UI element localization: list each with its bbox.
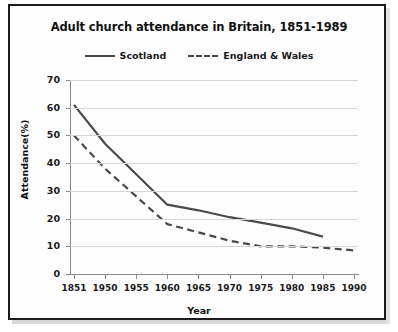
y-tick-mark bbox=[66, 135, 70, 136]
y-tick-label: 10 bbox=[26, 240, 60, 251]
gridline bbox=[70, 246, 358, 247]
x-tick-mark bbox=[323, 274, 324, 279]
gridline bbox=[70, 80, 358, 81]
gridline bbox=[70, 163, 358, 164]
legend-line-solid-icon bbox=[85, 55, 115, 57]
y-tick-label: 70 bbox=[26, 74, 60, 85]
gridline bbox=[70, 191, 358, 192]
series-layer bbox=[70, 80, 358, 274]
legend-label-england-wales: England & Wales bbox=[223, 50, 313, 61]
x-tick-label: 1955 bbox=[119, 283, 153, 293]
chart-title: Adult church attendance in Britain, 1851… bbox=[10, 20, 388, 34]
y-tick-label: 20 bbox=[26, 213, 60, 224]
x-tick-mark bbox=[292, 274, 293, 279]
y-tick-mark bbox=[66, 191, 70, 192]
x-axis-title: Year bbox=[10, 305, 388, 316]
x-tick-label: 1950 bbox=[88, 283, 122, 293]
legend-item-scotland: Scotland bbox=[85, 50, 167, 61]
x-axis-line bbox=[70, 274, 359, 275]
x-tick-mark bbox=[198, 274, 199, 279]
x-tick-label: 1960 bbox=[150, 283, 184, 293]
y-tick-label: 60 bbox=[26, 102, 60, 113]
y-tick-mark bbox=[66, 219, 70, 220]
x-tick-mark bbox=[136, 274, 137, 279]
y-tick-mark bbox=[66, 163, 70, 164]
x-tick-mark bbox=[105, 274, 106, 279]
y-tick-mark bbox=[66, 80, 70, 81]
x-tick-label: 1985 bbox=[306, 283, 340, 293]
x-tick-label: 1970 bbox=[213, 283, 247, 293]
legend-item-england-wales: England & Wales bbox=[188, 50, 313, 61]
gridline bbox=[70, 135, 358, 136]
y-tick-label: 40 bbox=[26, 157, 60, 168]
y-tick-label: 0 bbox=[26, 268, 60, 279]
legend-line-dashed-icon bbox=[188, 55, 218, 57]
y-tick-mark bbox=[66, 246, 70, 247]
x-tick-mark bbox=[354, 274, 355, 279]
x-tick-label: 1980 bbox=[275, 283, 309, 293]
plot-area bbox=[70, 80, 358, 274]
x-tick-label: 1965 bbox=[181, 283, 215, 293]
x-tick-label: 1990 bbox=[337, 283, 371, 293]
legend-label-scotland: Scotland bbox=[120, 50, 167, 61]
chart-legend: Scotland England & Wales bbox=[10, 50, 388, 61]
x-tick-mark bbox=[74, 274, 75, 279]
series-line-scotland bbox=[74, 105, 323, 237]
x-tick-mark bbox=[230, 274, 231, 279]
x-tick-label: 1851 bbox=[57, 283, 91, 293]
y-tick-label: 50 bbox=[26, 129, 60, 140]
x-tick-mark bbox=[261, 274, 262, 279]
gridline bbox=[70, 219, 358, 220]
y-tick-mark bbox=[66, 108, 70, 109]
gridline bbox=[70, 108, 358, 109]
x-tick-label: 1975 bbox=[244, 283, 278, 293]
chart-frame: Adult church attendance in Britain, 1851… bbox=[8, 4, 386, 320]
y-tick-label: 30 bbox=[26, 185, 60, 196]
x-tick-mark bbox=[167, 274, 168, 279]
frame-shadow-bottom bbox=[12, 320, 390, 324]
y-tick-mark bbox=[66, 274, 70, 275]
